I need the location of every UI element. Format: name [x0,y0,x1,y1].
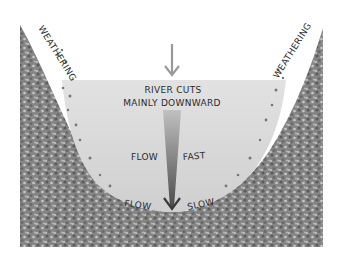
flow-fast-right-label: FAST [182,150,206,162]
down-arrow-icon [165,44,179,75]
weathering-right-label: WEATHERING [271,21,313,80]
main-label-line2: MAINLY DOWNWARD [123,98,220,108]
flow-fast-left-label: FLOW [131,152,158,162]
main-label-line1: RIVER CUTS [145,85,202,95]
river-valley-diagram: WEATHERING WEATHERING RIVER CUTS MAINLY … [0,0,341,259]
